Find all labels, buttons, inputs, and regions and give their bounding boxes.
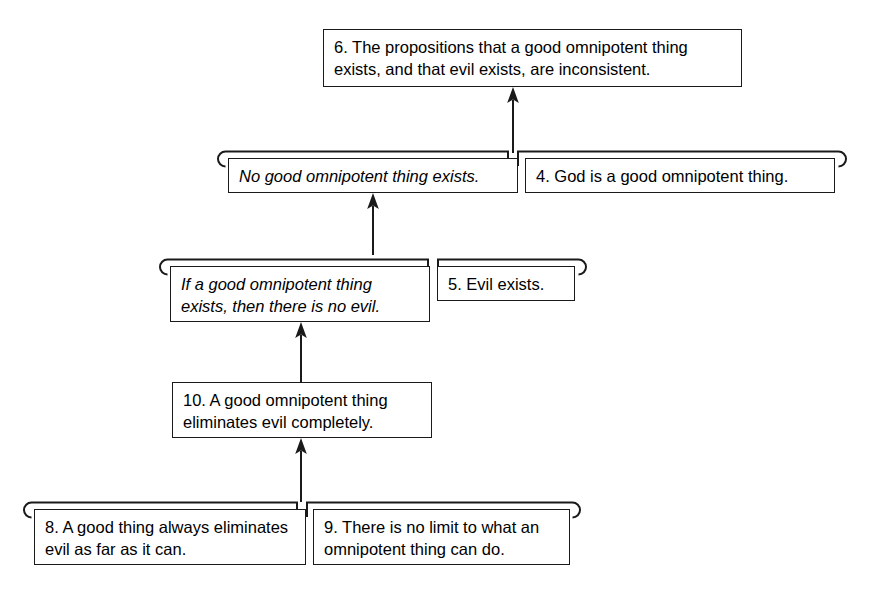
statement-box-5[interactable]: 5. Evil exists. bbox=[437, 266, 575, 301]
argument-diagram: 6. The propositions that a good omnipote… bbox=[0, 0, 877, 604]
inference-arrow-to-6 bbox=[504, 87, 522, 153]
inference-arrow-to-no-good-omnipotent-thing-exists bbox=[364, 193, 382, 255]
statement-box-no-good-omnipotent-thing-exists[interactable]: No good omnipotent thing exists. bbox=[228, 158, 518, 193]
cropped-caption-ghost bbox=[0, 0, 877, 9]
statement-box-4[interactable]: 4. God is a good omnipotent thing. bbox=[525, 158, 835, 193]
inference-arrow-to-10 bbox=[292, 438, 310, 502]
statement-box-6[interactable]: 6. The propositions that a good omnipote… bbox=[323, 29, 742, 87]
statement-box-if-good-omnipotent-thing-exists[interactable]: If a good omnipotent thing exists, then … bbox=[170, 266, 430, 322]
statement-box-9[interactable]: 9. There is no limit to what an omnipote… bbox=[313, 509, 570, 565]
statement-box-8[interactable]: 8. A good thing always eliminates evil a… bbox=[34, 509, 306, 565]
inference-arrow-to-if-good-omnipotent-thing-exists bbox=[292, 322, 310, 382]
statement-box-10[interactable]: 10. A good omnipotent thing eliminates e… bbox=[172, 382, 432, 438]
